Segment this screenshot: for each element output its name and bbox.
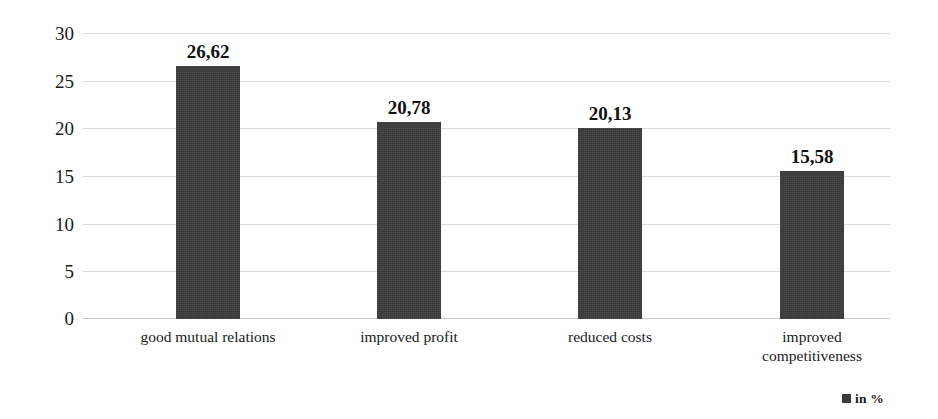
legend: in % — [842, 391, 884, 406]
y-tick-label: 10 — [28, 215, 74, 234]
bar-value-label: 20,78 — [388, 98, 431, 118]
bar[interactable] — [780, 171, 844, 319]
x-tick-label: improved competitiveness — [735, 327, 889, 365]
x-tick-label-line: improved profit — [360, 328, 458, 345]
bar-value-label: 20,13 — [589, 104, 632, 124]
bar[interactable] — [176, 66, 240, 319]
bar-value-label: 15,58 — [791, 147, 834, 167]
bar-group: 20,13 — [533, 33, 687, 319]
bar-group: 26,62 — [131, 33, 285, 319]
x-tick-label: good mutual relations — [131, 327, 285, 346]
x-tick-label-line: competitiveness — [735, 346, 889, 365]
bar-value-label: 26,62 — [187, 42, 230, 62]
y-tick-label: 15 — [28, 167, 74, 186]
x-tick-label: reduced costs — [533, 327, 687, 346]
y-tick-label: 5 — [28, 262, 74, 281]
y-tick-label: 0 — [28, 309, 74, 328]
y-axis: 30 25 20 15 10 5 0 — [22, 33, 74, 319]
bar-group: 15,58 — [735, 33, 889, 319]
y-tick-label: 25 — [28, 72, 74, 91]
bar[interactable] — [578, 128, 642, 319]
bars-layer: 26,62 20,78 20,13 15,58 — [83, 33, 890, 319]
y-tick-label: 30 — [28, 24, 74, 43]
legend-label: in % — [855, 391, 884, 406]
x-tick-label-line: improved — [782, 328, 841, 345]
x-tick-label-line: reduced costs — [568, 328, 652, 345]
legend-swatch-icon — [842, 394, 851, 403]
bar-group: 20,78 — [332, 33, 486, 319]
x-axis: good mutual relations improved profit re… — [83, 327, 890, 389]
bar[interactable] — [377, 122, 441, 319]
x-tick-label-line: good mutual relations — [140, 328, 275, 345]
bar-chart-figure: 30 25 20 15 10 5 0 26,62 20,78 20,13 15,… — [0, 0, 938, 419]
y-tick-label: 20 — [28, 119, 74, 138]
x-tick-label: improved profit — [332, 327, 486, 346]
